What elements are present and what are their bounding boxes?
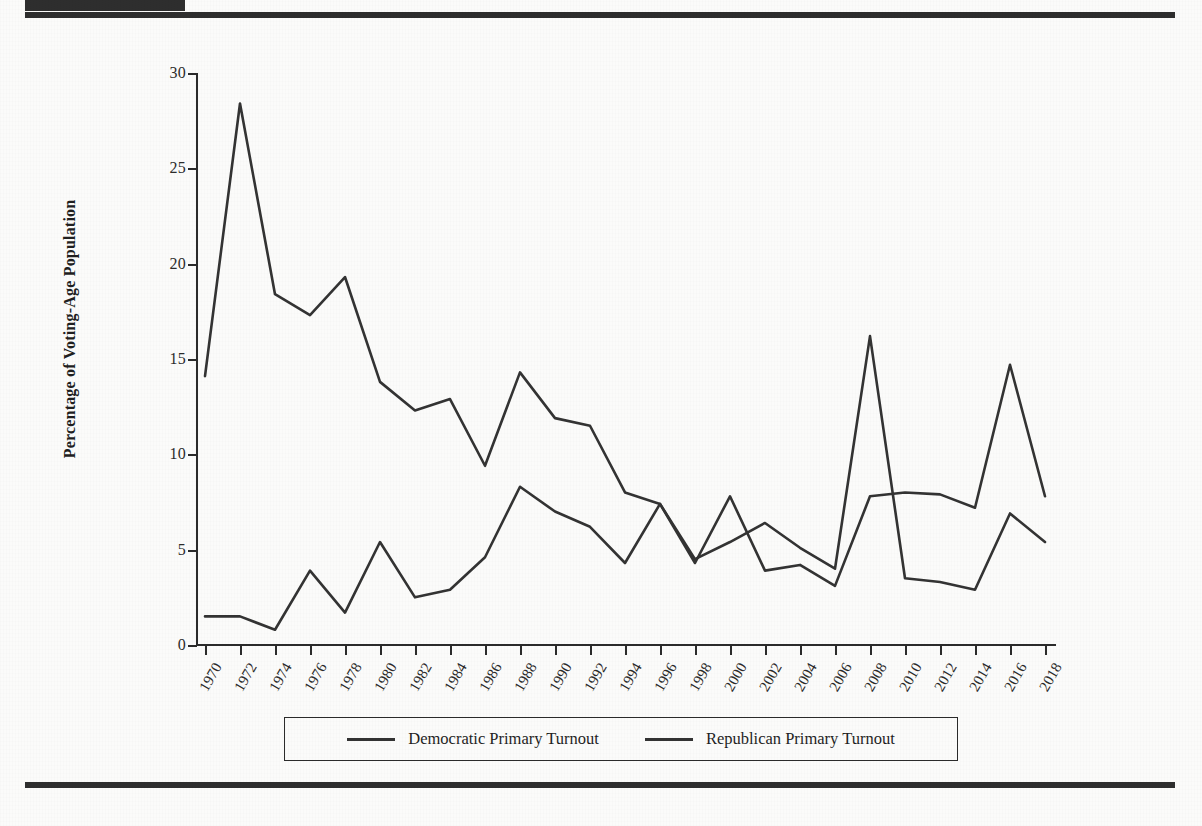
legend-line-icon — [645, 738, 693, 741]
bottom-rule — [25, 782, 1175, 788]
top-rule — [25, 12, 1175, 18]
redaction-block — [25, 0, 185, 11]
legend-line-icon — [347, 738, 395, 741]
document-page: Percentage of Voting-Age Population 0510… — [0, 0, 1202, 826]
cut-off-title — [0, 0, 1202, 1]
legend-label-republican: Republican Primary Turnout — [706, 729, 895, 749]
line-democratic-primary-turnout — [205, 104, 1045, 590]
legend-label-democratic: Democratic Primary Turnout — [408, 729, 599, 749]
legend-item-republican: Republican Primary Turnout — [645, 729, 895, 749]
series-lines — [0, 20, 1202, 780]
chart-legend: Democratic Primary Turnout Republican Pr… — [284, 717, 958, 761]
legend-item-democratic: Democratic Primary Turnout — [347, 729, 599, 749]
line-republican-primary-turnout — [205, 365, 1045, 630]
chart-plot-area: Percentage of Voting-Age Population 0510… — [0, 20, 1202, 780]
